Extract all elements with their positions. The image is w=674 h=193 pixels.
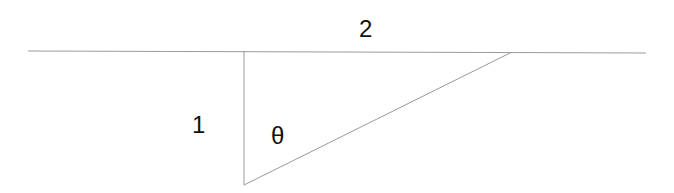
left-side-label: 1 xyxy=(192,111,205,138)
angle-theta-label: θ xyxy=(271,122,284,149)
top-side-label: 2 xyxy=(359,15,372,42)
triangle-diagram: 2 1 θ xyxy=(0,0,674,193)
hypotenuse xyxy=(244,53,510,185)
horizontal-line xyxy=(28,51,646,53)
